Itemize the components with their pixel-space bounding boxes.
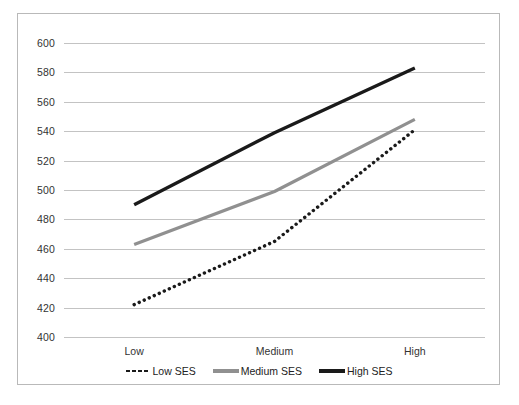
gridline (64, 337, 485, 338)
legend-item-low-ses[interactable]: Low SES (124, 366, 195, 377)
y-axis-tick-label: 540 (37, 125, 55, 137)
y-axis-tick-label: 440 (37, 272, 55, 284)
y-axis-tick-label: 400 (37, 331, 55, 343)
legend-item-medium-ses[interactable]: Medium SES (213, 366, 302, 377)
y-axis-tick-label: 580 (37, 66, 55, 78)
y-axis-tick-label: 480 (37, 213, 55, 225)
x-axis-tick-label: High (404, 345, 426, 357)
series-line-high-ses (134, 68, 415, 205)
x-axis-tick-label: Low (125, 345, 144, 357)
chart-container: 400420440460480500520540560580600 LowMed… (17, 13, 500, 385)
y-axis-tick-label: 420 (37, 302, 55, 314)
plot-area: 400420440460480500520540560580600 LowMed… (64, 43, 485, 337)
dotted-line-marker (124, 366, 150, 376)
y-axis-tick-label: 600 (37, 37, 55, 49)
series-group (64, 43, 485, 337)
y-axis-tick-label: 520 (37, 155, 55, 167)
y-axis-tick-label: 560 (37, 96, 55, 108)
legend-item-label: Low SES (152, 366, 195, 377)
black-line-marker (319, 366, 345, 376)
chart-legend: Low SESMedium SESHigh SES (18, 366, 499, 377)
gray-line-marker (213, 366, 239, 376)
y-axis-tick-label: 460 (37, 243, 55, 255)
legend-item-high-ses[interactable]: High SES (319, 366, 393, 377)
legend-item-label: High SES (347, 366, 393, 377)
y-axis-tick-label: 500 (37, 184, 55, 196)
x-axis-tick-label: Medium (256, 345, 293, 357)
series-line-low-ses (134, 130, 415, 305)
legend-item-label: Medium SES (241, 366, 302, 377)
